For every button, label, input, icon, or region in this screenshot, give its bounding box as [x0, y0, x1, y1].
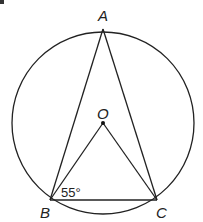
label-o: O [97, 105, 109, 122]
angle-label: 55° [61, 185, 81, 200]
segment-ac [103, 29, 157, 200]
segment-oc [103, 123, 157, 200]
geometry-diagram: A O B C 55° [0, 0, 203, 222]
segment-ab [50, 29, 103, 200]
label-a: A [97, 7, 108, 24]
label-b: B [40, 204, 50, 221]
label-c: C [156, 204, 167, 221]
